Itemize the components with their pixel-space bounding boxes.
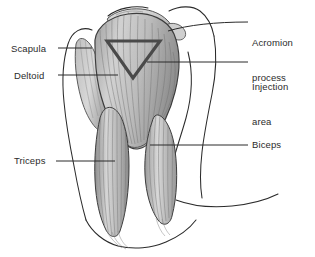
label-triceps: Triceps [14,155,46,167]
label-injection-area-line1: Injection [252,81,288,93]
anatomy-figure: Scapula Deltoid Triceps Acromion process… [0,0,315,257]
label-scapula: Scapula [11,43,46,55]
label-injection-area-line2: area [252,116,288,128]
biceps-muscle [145,114,177,236]
triceps-muscle [95,107,129,249]
label-deltoid: Deltoid [14,70,44,82]
label-biceps: Biceps [252,139,281,151]
label-injection-area: Injection area [252,58,288,150]
label-acromion-process-line1: Acromion [252,37,293,49]
